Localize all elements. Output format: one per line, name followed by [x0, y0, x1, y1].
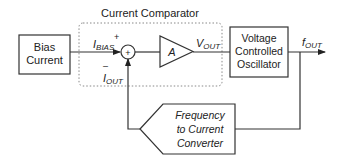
current-comparator-group — [79, 23, 222, 86]
frequency-to-current-converter-block: Frequency to Current Converter — [140, 104, 235, 154]
f-out-label: fOUT — [302, 36, 323, 50]
i-out-label: IOUT — [103, 72, 124, 86]
vco-label-line2: Controlled — [235, 45, 283, 57]
current-comparator-title: Current Comparator — [101, 7, 199, 19]
bias-current-block: Bias Current — [19, 35, 70, 74]
amplifier-gain-label: A — [167, 46, 175, 58]
amplifier: A — [160, 36, 193, 67]
bias-current-label-line2: Current — [26, 54, 63, 66]
converter-label-line3: Converter — [177, 137, 224, 149]
wire-converter-to-sum — [128, 59, 140, 129]
plus-sign: + — [114, 32, 119, 42]
summing-node: + — [121, 45, 135, 59]
vco-block: Voltage Controlled Oscillator — [230, 27, 288, 77]
summing-node-symbol: + — [125, 48, 130, 58]
block-diagram: Current Comparator Bias Current IBIAS + … — [0, 0, 343, 163]
minus-sign: – — [103, 61, 108, 71]
vco-label-line1: Voltage — [241, 32, 276, 44]
i-bias-label: IBIAS — [93, 38, 115, 52]
converter-label-line1: Frequency — [175, 109, 225, 121]
bias-current-label-line1: Bias — [34, 41, 56, 53]
v-out-label: VOUT — [196, 37, 221, 51]
converter-label-line2: to Current — [177, 123, 225, 135]
vco-label-line3: Oscillator — [237, 58, 281, 70]
